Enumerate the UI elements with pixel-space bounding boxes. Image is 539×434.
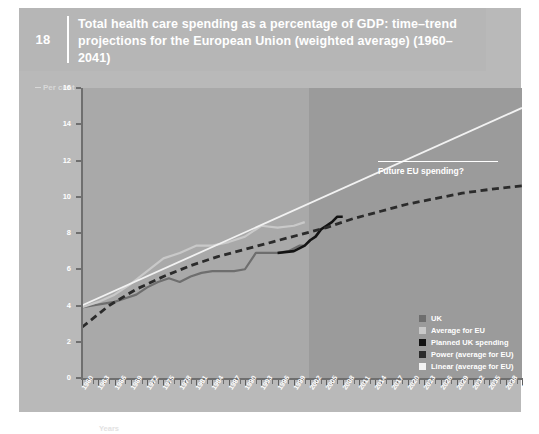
y-tick — [76, 87, 81, 89]
x-axis-title: Years — [99, 424, 119, 433]
y-tick-label: 12 — [45, 156, 71, 165]
legend-label-linear: Linear (average for EU) — [431, 362, 514, 371]
plot-area: Future EU spending? UK Average for EU Pl… — [82, 88, 522, 378]
annotation-leader-line — [378, 161, 498, 162]
figure-title: Total health care spending as a percenta… — [78, 16, 478, 67]
x-tick — [468, 380, 469, 384]
y-tick-label: 0 — [45, 373, 71, 382]
legend-label-power: Power (average for EU) — [431, 350, 514, 359]
legend-label-average-for-eu: Average for EU — [431, 326, 485, 335]
x-tick — [419, 380, 420, 384]
x-tick — [305, 380, 306, 384]
x-tick — [321, 380, 322, 384]
x-tick — [109, 380, 110, 384]
legend-swatch-planned-uk-spending — [419, 339, 426, 346]
y-tick — [76, 305, 81, 307]
x-tick — [370, 380, 371, 384]
y-tick-label: 4 — [45, 301, 71, 310]
y-axis-line — [81, 88, 83, 379]
series-line-planned-uk-spending — [278, 217, 343, 253]
x-tick — [256, 380, 257, 384]
legend-label-planned-uk-spending: Planned UK spending — [431, 338, 509, 347]
legend-item-power: Power (average for EU) — [419, 349, 514, 360]
y-tick-label: 8 — [45, 228, 71, 237]
figure-number: 18 — [35, 32, 50, 47]
x-tick — [500, 380, 501, 384]
percent-leader — [35, 87, 41, 88]
x-tick — [207, 380, 208, 384]
x-tick — [191, 380, 192, 384]
y-tick-label: 10 — [45, 192, 71, 201]
header-divider — [67, 16, 69, 63]
legend-swatch-linear — [419, 363, 426, 370]
y-tick-label: 2 — [45, 337, 71, 346]
legend-swatch-power — [419, 351, 426, 358]
x-tick — [223, 380, 224, 384]
chart-legend: UK Average for EU Planned UK spending Po… — [419, 313, 514, 373]
legend-item-linear: Linear (average for EU) — [419, 361, 514, 372]
legend-item-uk: UK — [419, 313, 514, 324]
x-tick — [435, 380, 436, 384]
y-tick-label: 6 — [45, 264, 71, 273]
legend-label-uk: UK — [431, 314, 442, 323]
legend-swatch-average-for-eu — [419, 327, 426, 334]
y-tick — [76, 341, 81, 343]
x-tick — [484, 380, 485, 384]
legend-item-average-for-eu: Average for EU — [419, 325, 514, 336]
future-eu-spending-annotation: Future EU spending? — [378, 166, 464, 176]
y-tick — [76, 123, 81, 125]
x-tick — [174, 380, 175, 384]
x-tick — [272, 380, 273, 384]
y-tick — [76, 160, 81, 162]
series-line-linear-average-for-eu — [82, 108, 522, 306]
y-tick — [76, 232, 81, 234]
figure-number-badge: 18 — [19, 8, 67, 71]
figure-page: 18 Total health care spending as a perce… — [0, 0, 539, 434]
y-tick — [76, 377, 81, 379]
legend-item-planned-uk-spending: Planned UK spending — [419, 337, 514, 348]
y-tick-label: 14 — [45, 119, 71, 128]
y-tick — [76, 268, 81, 270]
x-tick — [93, 380, 94, 384]
x-tick — [142, 380, 143, 384]
chart-container: Per cent Future EU spending? UK Average … — [19, 71, 521, 412]
x-tick-label: 2041 — [520, 374, 535, 391]
x-tick — [386, 380, 387, 384]
x-tick — [337, 380, 338, 384]
legend-swatch-uk — [419, 315, 426, 322]
x-tick — [158, 380, 159, 384]
y-tick — [76, 196, 81, 198]
y-tick-label: 16 — [45, 83, 71, 92]
